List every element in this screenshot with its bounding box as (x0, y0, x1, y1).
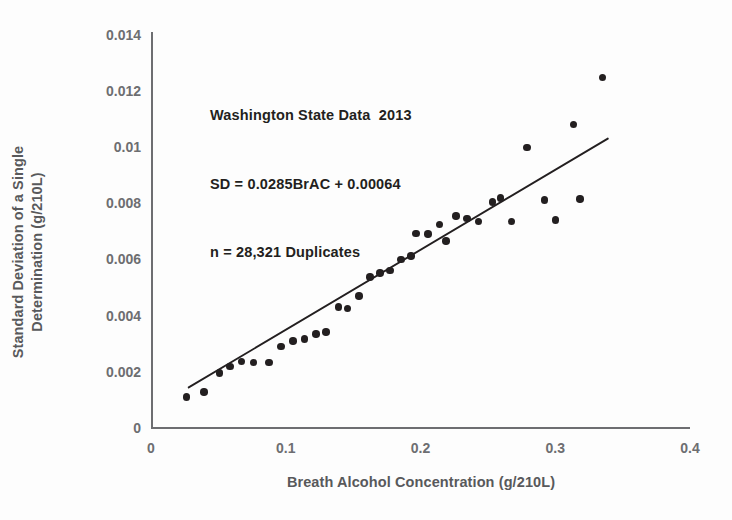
data-point (424, 230, 432, 238)
data-point (289, 337, 297, 345)
data-point (322, 328, 330, 336)
data-point (576, 195, 584, 203)
data-point (183, 393, 191, 401)
annotation-line-title: Washington State Data 2013 (210, 104, 412, 127)
annotation-line-sample-size: n = 28,321 Duplicates (210, 241, 412, 264)
x-tick-label: 0.4 (660, 440, 720, 456)
data-point (226, 363, 234, 371)
data-point (200, 388, 208, 396)
data-point (442, 237, 450, 245)
data-point (489, 198, 497, 206)
x-tick-label: 0.3 (525, 440, 585, 456)
data-point (523, 144, 531, 152)
data-point (277, 343, 285, 351)
chart-figure: Standard Deviation of a Single Determina… (0, 0, 732, 520)
x-tick-label: 0 (121, 440, 181, 456)
data-point (552, 216, 560, 224)
data-point (312, 330, 320, 338)
x-axis-title: Breath Alcohol Concentration (g/210L) (151, 474, 691, 490)
x-tick-label: 0.2 (391, 440, 451, 456)
chart-annotation: Washington State Data 2013 SD = 0.0285Br… (210, 58, 412, 310)
data-point (412, 230, 420, 238)
data-point (541, 196, 549, 204)
data-point (265, 359, 273, 367)
annotation-line-equation: SD = 0.0285BrAC + 0.00064 (210, 173, 412, 196)
data-point (452, 212, 460, 220)
data-point (436, 221, 444, 229)
x-tick-label: 0.1 (256, 440, 316, 456)
data-point (463, 215, 471, 223)
